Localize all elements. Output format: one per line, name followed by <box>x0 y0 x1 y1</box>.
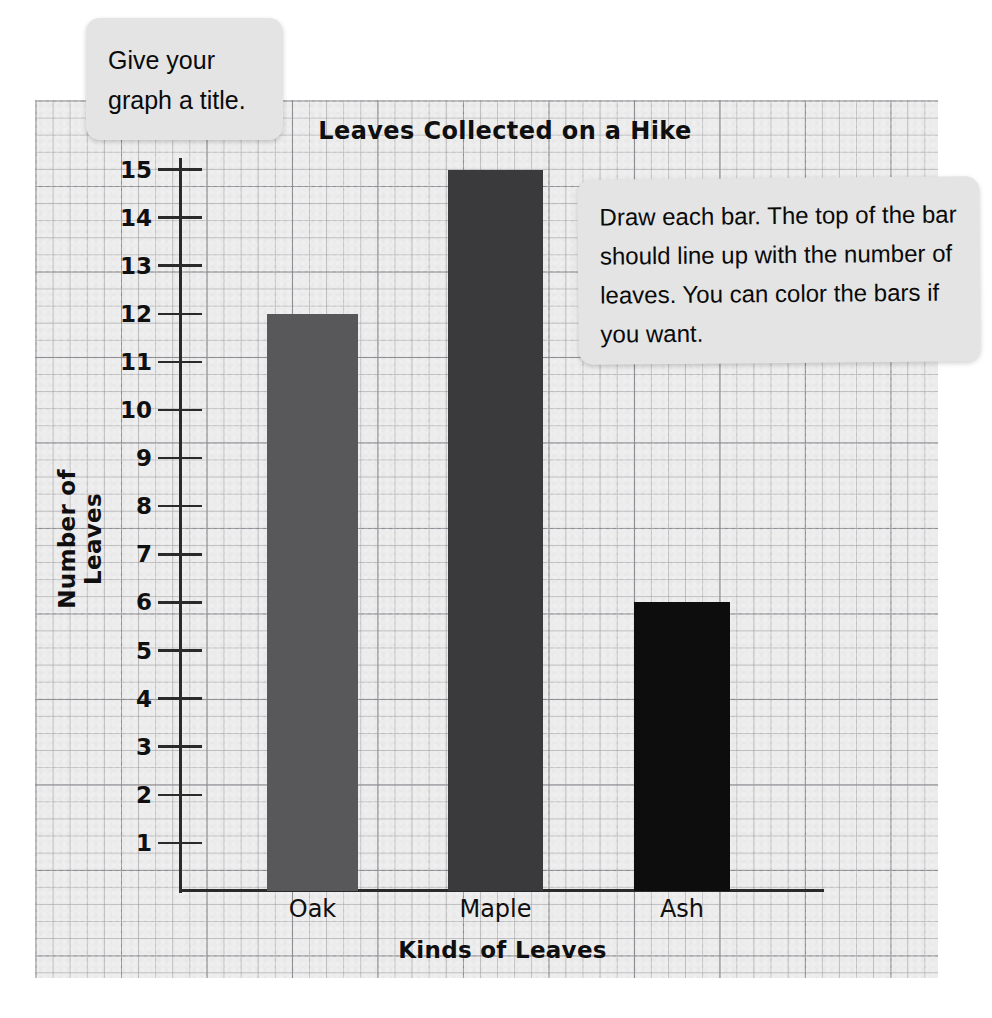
callout-give-title: Give your graph a title. <box>86 18 283 140</box>
callout-draw-bars: Draw each bar. The top of the bar should… <box>577 176 981 365</box>
